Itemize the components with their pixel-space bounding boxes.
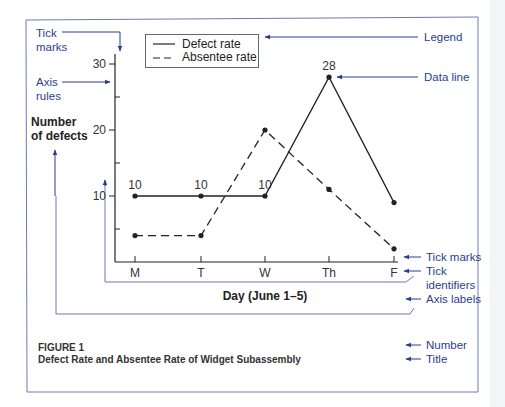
y-axis-label: Number of defects: [31, 115, 88, 143]
legend-absentee-rate: Absentee rate: [182, 50, 257, 64]
annotation-axis-labels: Axis labels: [426, 293, 481, 305]
annotation-tick-marks-bottom: Tick marks: [426, 251, 481, 263]
data-label: 10: [258, 178, 272, 192]
x-tick-label: Th: [322, 266, 336, 280]
data-point: [198, 233, 203, 238]
figure-canvas: 102030 MTWThF 10101028 Defect rate Absen…: [0, 0, 505, 407]
data-point: [132, 233, 137, 238]
figure-caption: Defect Rate and Absentee Rate of Widget …: [38, 354, 301, 365]
data-label: 28: [322, 59, 336, 73]
legend: Defect rate Absentee rate: [146, 35, 259, 68]
annotation-legend: Legend: [424, 31, 462, 43]
data-point: [391, 200, 396, 205]
data-point: [326, 187, 331, 192]
outer-frame: [26, 17, 478, 392]
x-tick-label: M: [130, 266, 140, 280]
data-point: [262, 127, 267, 132]
annotation-number: Number: [426, 339, 467, 351]
annotation-data-line: Data line: [424, 71, 469, 83]
x-tick-label: W: [259, 266, 271, 280]
annotation-tick-identifiers: Tickidentifiers: [426, 265, 475, 291]
x-tick-label: F: [390, 266, 397, 280]
data-label: 10: [194, 178, 208, 192]
x-ticks: MTWThF: [130, 256, 398, 280]
x-tick-label: T: [197, 266, 205, 280]
y-tick-label: 20: [93, 123, 107, 137]
data-point: [262, 193, 267, 198]
x-axis-label: Day (June 1–5): [223, 289, 308, 303]
annotation-tick-marks-top: Tickmarks: [36, 27, 68, 53]
legend-defect-rate: Defect rate: [182, 37, 241, 51]
y-tick-label: 10: [93, 189, 107, 203]
data-point: [132, 193, 137, 198]
annotation-title: Title: [426, 353, 447, 365]
annotation-axis-rules: Axisrules: [36, 76, 61, 102]
data-lines: 10101028: [128, 59, 396, 251]
data-point: [391, 246, 396, 251]
data-point: [326, 75, 331, 80]
data-point: [198, 193, 203, 198]
data-label: 10: [128, 178, 142, 192]
y-tick-label: 30: [93, 57, 107, 71]
y-ticks: 102030: [93, 57, 120, 229]
figure-number: FIGURE 1: [38, 342, 85, 353]
